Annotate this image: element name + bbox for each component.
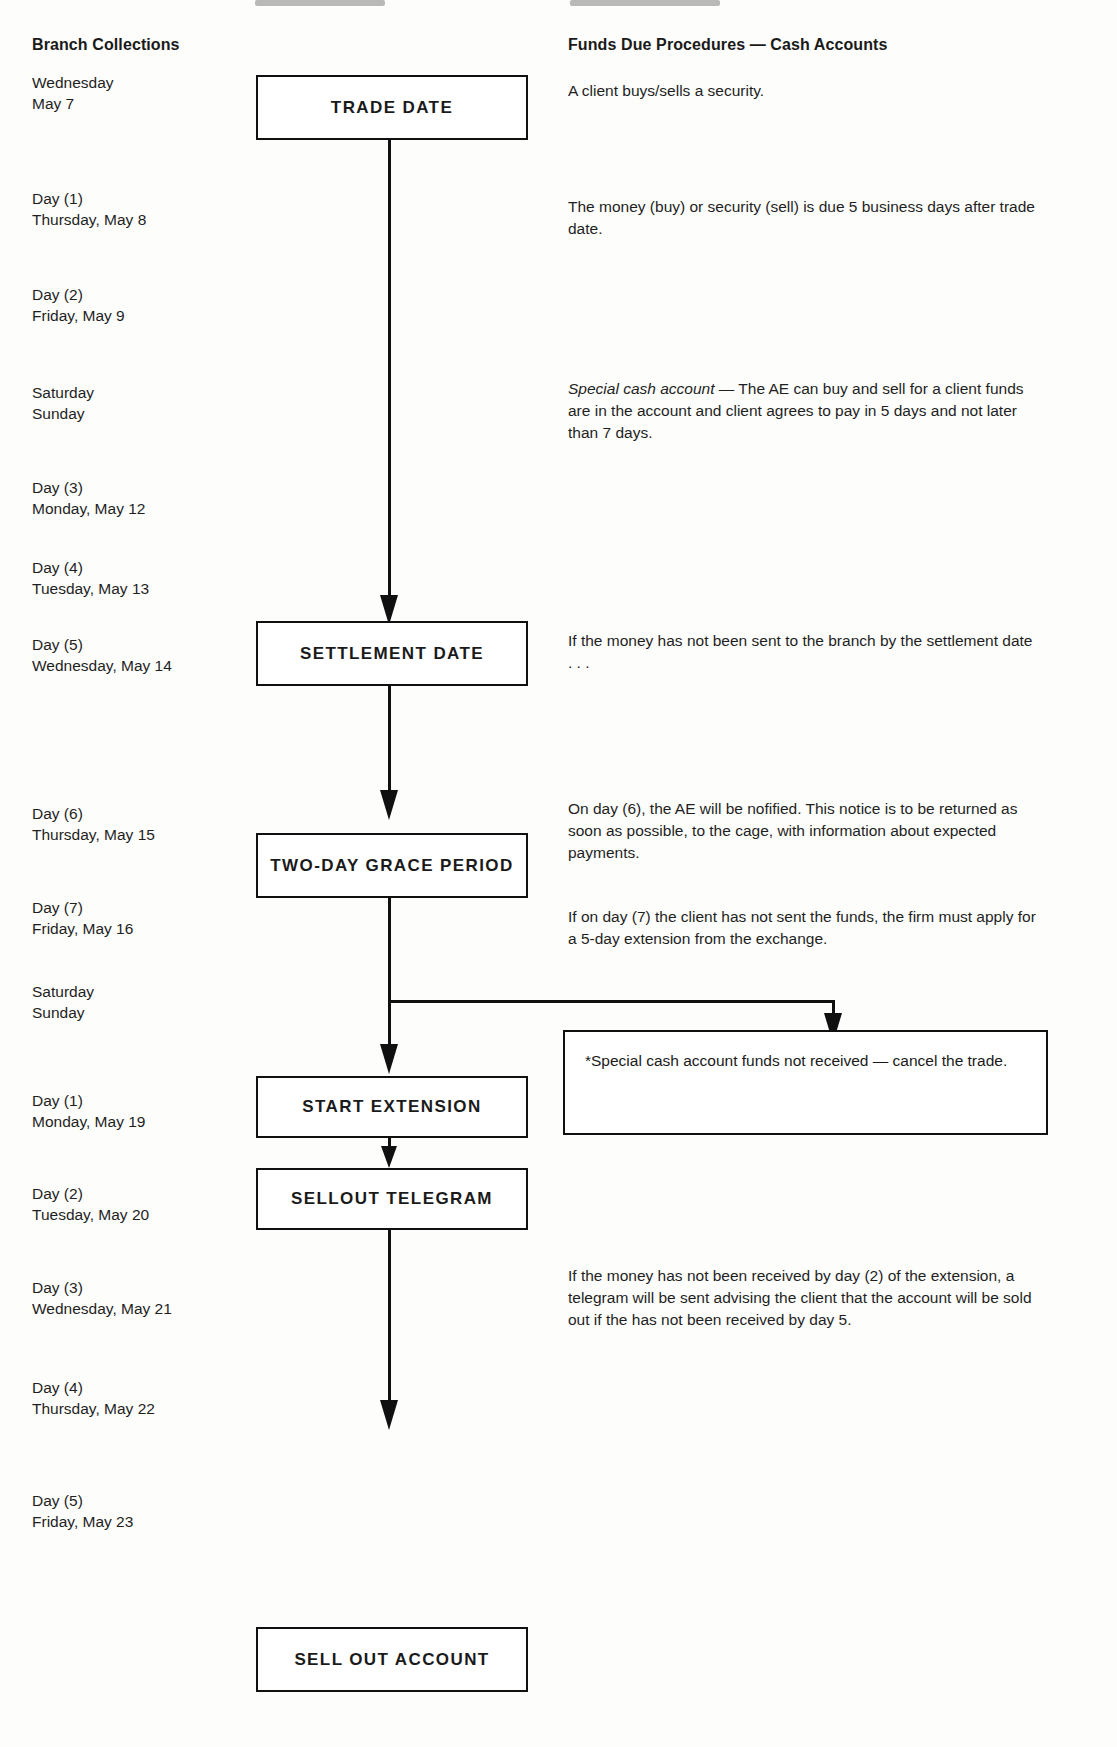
connector-settlement-to-grace (388, 686, 391, 796)
connector-grace-branch-right (388, 1000, 835, 1003)
timeline-line2: Sunday (32, 403, 94, 424)
cancel-trade-text: *Special cash account funds not received… (585, 1050, 1026, 1072)
timeline-line1: Day (2) (32, 1183, 149, 1204)
timeline-line2: Thursday, May 8 (32, 209, 146, 230)
scan-artifact (570, 0, 720, 6)
scan-artifact (255, 0, 385, 6)
timeline-line2: Friday, May 9 (32, 305, 125, 326)
timeline-line2: Wednesday, May 21 (32, 1298, 172, 1319)
timeline-entry: Day (5) Wednesday, May 14 (32, 634, 172, 676)
note-day-seven: If on day (7) the client has not sent th… (568, 906, 1036, 950)
timeline-line1: Day (6) (32, 803, 155, 824)
timeline-line2: Tuesday, May 20 (32, 1204, 149, 1225)
timeline-line1: Day (7) (32, 897, 133, 918)
node-label: SELL OUT ACCOUNT (294, 1650, 489, 1670)
right-column-heading: Funds Due Procedures — Cash Accounts (568, 36, 888, 54)
timeline-entry: Day (4) Thursday, May 22 (32, 1377, 155, 1419)
node-label: SETTLEMENT DATE (300, 644, 484, 664)
timeline-line1: Day (5) (32, 1490, 133, 1511)
timeline-line2: Monday, May 19 (32, 1111, 145, 1132)
timeline-line2: Sunday (32, 1002, 94, 1023)
note-settlement: If the money has not been sent to the br… (568, 630, 1036, 674)
timeline-line2: Thursday, May 15 (32, 824, 155, 845)
timeline-line1: Day (4) (32, 1377, 155, 1398)
timeline-entry: Day (7) Friday, May 16 (32, 897, 133, 939)
timeline-line1: Day (1) (32, 1090, 145, 1111)
timeline-entry: Day (6) Thursday, May 15 (32, 803, 155, 845)
timeline-line1: Day (3) (32, 1277, 172, 1298)
flowchart-page: Branch Collections Funds Due Procedures … (0, 0, 1117, 1747)
timeline-line2: Friday, May 16 (32, 918, 133, 939)
timeline-line1: Saturday (32, 382, 94, 403)
timeline-entry: Wednesday May 7 (32, 72, 114, 114)
timeline-line1: Day (2) (32, 284, 125, 305)
special-cash-emphasis: Special cash account (568, 380, 714, 397)
timeline-entry: Day (3) Monday, May 12 (32, 477, 145, 519)
timeline-line1: Day (4) (32, 557, 149, 578)
note-trade-date: A client buys/sells a security. (568, 80, 1036, 102)
node-trade-date[interactable]: TRADE DATE (256, 75, 528, 140)
timeline-line1: Wednesday (32, 72, 114, 93)
node-label: START EXTENSION (302, 1097, 481, 1117)
timeline-entry: Day (2) Tuesday, May 20 (32, 1183, 149, 1225)
timeline-line2: May 7 (32, 93, 114, 114)
connector-grace-down (388, 898, 391, 1066)
node-label: TWO-DAY GRACE PERIOD (270, 856, 513, 876)
node-start-extension[interactable]: START EXTENSION (256, 1076, 528, 1138)
arrowhead-telegram (381, 1146, 397, 1168)
node-sell-out-account[interactable]: SELL OUT ACCOUNT (256, 1627, 528, 1692)
timeline-entry: Day (5) Friday, May 23 (32, 1490, 133, 1532)
timeline-line1: Day (3) (32, 477, 145, 498)
timeline-entry: Day (1) Thursday, May 8 (32, 188, 146, 230)
note-special-cash-account: Special cash account — The AE can buy an… (568, 378, 1036, 444)
node-sellout-telegram[interactable]: SELLOUT TELEGRAM (256, 1168, 528, 1230)
left-column-heading: Branch Collections (32, 36, 180, 54)
timeline-line2: Friday, May 23 (32, 1511, 133, 1532)
timeline-entry: Day (1) Monday, May 19 (32, 1090, 145, 1132)
timeline-line2: Tuesday, May 13 (32, 578, 149, 599)
timeline-line2: Thursday, May 22 (32, 1398, 155, 1419)
timeline-line1: Saturday (32, 981, 94, 1002)
node-label: TRADE DATE (331, 98, 453, 118)
timeline-entry: Day (3) Wednesday, May 21 (32, 1277, 172, 1319)
timeline-entry: Day (2) Friday, May 9 (32, 284, 125, 326)
connector-telegram-to-account (388, 1230, 391, 1410)
node-grace-period[interactable]: TWO-DAY GRACE PERIOD (256, 833, 528, 898)
timeline-entry: Saturday Sunday (32, 382, 94, 424)
timeline-line1: Day (1) (32, 188, 146, 209)
node-settlement-date[interactable]: SETTLEMENT DATE (256, 621, 528, 686)
timeline-entry: Day (4) Tuesday, May 13 (32, 557, 149, 599)
note-day-six: On day (6), the AE will be nofified. Thi… (568, 798, 1036, 864)
timeline-line2: Wednesday, May 14 (32, 655, 172, 676)
timeline-entry: Saturday Sunday (32, 981, 94, 1023)
arrowhead-grace (380, 790, 398, 820)
connector-trade-to-settlement (388, 140, 391, 602)
node-cancel-trade[interactable]: *Special cash account funds not received… (563, 1030, 1048, 1135)
timeline-line1: Day (5) (32, 634, 172, 655)
node-label: SELLOUT TELEGRAM (291, 1189, 493, 1209)
note-sellout: If the money has not been received by da… (568, 1265, 1036, 1331)
arrowhead-sell-out-account (380, 1400, 398, 1430)
timeline-line2: Monday, May 12 (32, 498, 145, 519)
note-due-days: The money (buy) or security (sell) is du… (568, 196, 1036, 240)
arrowhead-start-extension (380, 1044, 398, 1074)
